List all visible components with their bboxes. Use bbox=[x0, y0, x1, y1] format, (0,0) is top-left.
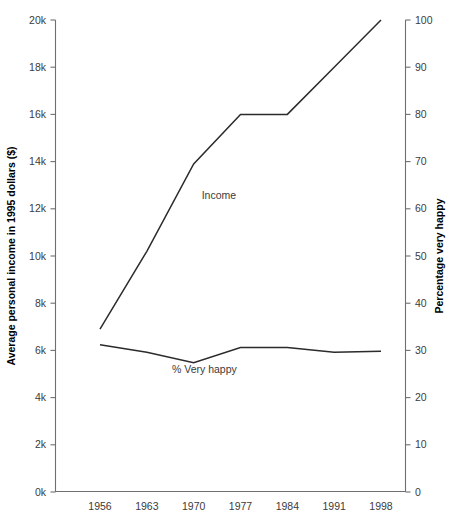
right-tick-label: 90 bbox=[415, 61, 427, 73]
left-tick-label: 12k bbox=[29, 202, 47, 214]
income-line-series bbox=[100, 20, 381, 329]
very-happy-series-label: % Very happy bbox=[172, 363, 238, 375]
right-axis-title: Percentage very happy bbox=[433, 198, 445, 313]
right-tick-label: 80 bbox=[415, 108, 427, 120]
left-tick-label: 8k bbox=[35, 297, 47, 309]
left-axis-title: Average personal income in 1995 dollars … bbox=[5, 146, 17, 365]
right-tick-label: 60 bbox=[415, 202, 427, 214]
income-series-label: Income bbox=[202, 189, 237, 201]
right-tick-label: 40 bbox=[415, 297, 427, 309]
chart-container: 0k2k4k6k8k10k12k14k16k18k20k 01020304050… bbox=[0, 0, 450, 531]
right-tick-label: 30 bbox=[415, 344, 427, 356]
x-tick-label: 1956 bbox=[88, 500, 112, 512]
x-tick-label: 1963 bbox=[135, 500, 159, 512]
right-axis-ticks bbox=[406, 20, 411, 492]
left-tick-label: 18k bbox=[29, 61, 47, 73]
x-tick-label: 1977 bbox=[229, 500, 253, 512]
x-tick-label: 1970 bbox=[182, 500, 206, 512]
left-tick-label: 4k bbox=[35, 391, 47, 403]
right-tick-label: 70 bbox=[415, 155, 427, 167]
left-tick-label: 20k bbox=[29, 14, 47, 26]
right-tick-label: 50 bbox=[415, 250, 427, 262]
left-tick-label: 0k bbox=[35, 486, 47, 498]
line-chart-plot: 0k2k4k6k8k10k12k14k16k18k20k 01020304050… bbox=[0, 0, 450, 531]
right-tick-label: 10 bbox=[415, 438, 427, 450]
left-tick-label: 16k bbox=[29, 108, 47, 120]
x-axis-tick-labels: 1956196319701977198419911998 bbox=[88, 500, 393, 512]
left-tick-label: 14k bbox=[29, 155, 47, 167]
x-tick-label: 1991 bbox=[322, 500, 346, 512]
left-axis-ticks bbox=[51, 20, 56, 492]
left-tick-label: 10k bbox=[29, 250, 47, 262]
x-tick-label: 1998 bbox=[369, 500, 393, 512]
right-axis-tick-labels: 0102030405060708090100 bbox=[415, 14, 433, 498]
very-happy-line-series bbox=[100, 345, 381, 363]
left-tick-label: 6k bbox=[35, 344, 47, 356]
left-axis-tick-labels: 0k2k4k6k8k10k12k14k16k18k20k bbox=[29, 14, 47, 498]
right-tick-label: 0 bbox=[415, 486, 421, 498]
right-tick-label: 20 bbox=[415, 391, 427, 403]
x-tick-label: 1984 bbox=[276, 500, 300, 512]
left-tick-label: 2k bbox=[35, 438, 47, 450]
right-tick-label: 100 bbox=[415, 14, 433, 26]
